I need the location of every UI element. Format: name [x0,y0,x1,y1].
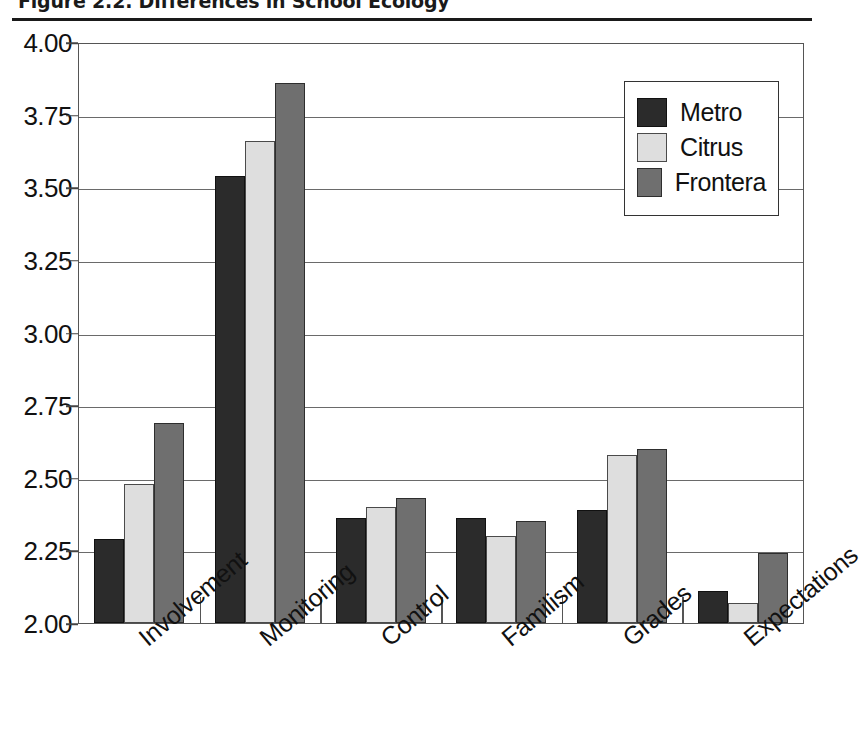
legend-label: Citrus [680,135,743,160]
bar-citrus [245,141,275,623]
y-tick-label: 4.00 [0,28,72,59]
x-label-cell: Control [320,624,441,739]
bar-set [320,44,441,623]
bar-group [79,44,200,623]
legend-swatch-icon [637,133,667,162]
bar-group [320,44,441,623]
bar-frontera [275,83,305,623]
y-tick-label: 3.00 [0,318,72,349]
y-tick-mark [66,115,78,117]
bar-group [441,44,562,623]
y-tick-mark [66,478,78,480]
bar-chart: 2.002.252.502.753.003.253.503.754.00 Inv… [0,24,814,739]
title-divider [12,18,812,21]
x-label-cell: Grades [562,624,683,739]
y-tick-label: 3.75 [0,100,72,131]
legend-label: Frontera [675,170,766,195]
x-label-cell: Familism [441,624,562,739]
bar-citrus [486,536,516,623]
legend-label: Metro [680,100,742,125]
y-tick-mark [66,260,78,262]
x-axis-labels: InvolvementMonitoringControlFamilismGrad… [78,624,804,739]
bar-metro [94,539,124,623]
y-tick-mark [66,405,78,407]
x-label-cell: Monitoring [199,624,320,739]
legend-item-citrus: Citrus [637,133,766,162]
x-label-cell: Involvement [78,624,199,739]
bar-group [200,44,321,623]
bar-set [79,44,200,623]
bar-metro [698,591,728,623]
y-tick-label: 2.75 [0,391,72,422]
bar-citrus [124,484,154,623]
bar-metro [456,518,486,623]
y-tick-mark [66,188,78,190]
bar-citrus [366,507,396,623]
y-tick-mark [66,42,78,44]
legend-item-metro: Metro [637,98,766,127]
y-tick-label: 3.50 [0,173,72,204]
y-tick-mark [66,623,78,625]
y-tick-label: 2.50 [0,463,72,494]
bar-set [200,44,321,623]
y-tick-mark [66,551,78,553]
bar-metro [577,510,607,623]
page-title: Figure 2.2. Differences in School Ecolog… [18,0,450,12]
legend-swatch-icon [637,168,662,197]
x-label-cell: Expectations [683,624,804,739]
y-tick-mark [66,333,78,335]
y-tick-label: 2.00 [0,609,72,640]
y-tick-label: 3.25 [0,245,72,276]
legend-item-frontera: Frontera [637,168,766,197]
legend-swatch-icon [637,98,667,127]
y-tick-label: 2.25 [0,536,72,567]
bar-citrus [607,455,637,623]
bar-set [441,44,562,623]
chart-legend: Metro Citrus Frontera [624,81,779,216]
